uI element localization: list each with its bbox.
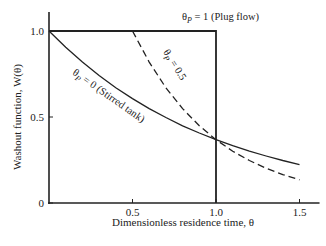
y-axis-label: Washout function, W(θ): [11, 64, 24, 170]
y-tick-label: 1.0: [30, 25, 44, 37]
x-axis-label: Dimensionless residence time, θ: [112, 216, 254, 228]
annotation-theta-half: θP = 0.5: [159, 47, 189, 83]
annotation-stirred-tank: θP = 0 (Stirred tank): [69, 67, 147, 128]
axes: [48, 12, 320, 204]
x-tick-label: 1.5: [293, 206, 307, 218]
y-tick-label: 0: [39, 197, 45, 209]
annotation-plug-flow: θP = 1 (Plug flow): [182, 11, 260, 25]
washout-chart: 0.51.01.500.51.0 Dimensionless residence…: [0, 0, 326, 246]
y-tick-label: 0.5: [30, 111, 44, 123]
